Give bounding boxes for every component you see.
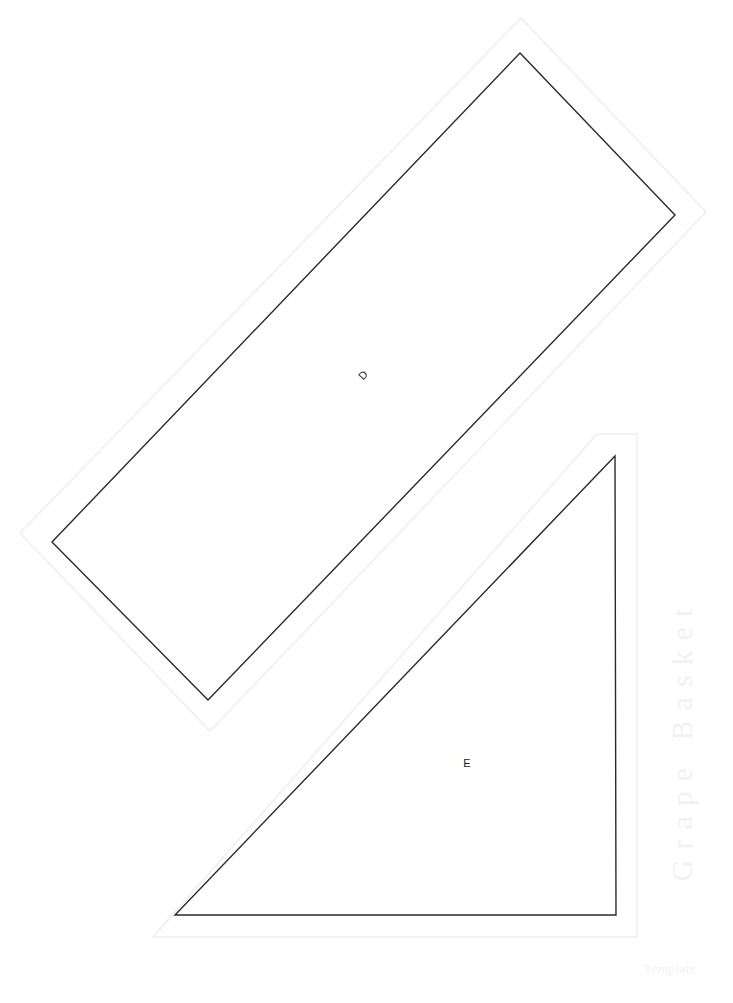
pattern-canvas: D E Grape Basket Template — [0, 0, 733, 1003]
piece-e-label: E — [463, 757, 470, 769]
watermark-side-text: Grape Basket — [665, 599, 698, 881]
watermark-corner-text: Template — [644, 961, 696, 976]
template-sheet: D E Grape Basket Template — [0, 0, 733, 1003]
